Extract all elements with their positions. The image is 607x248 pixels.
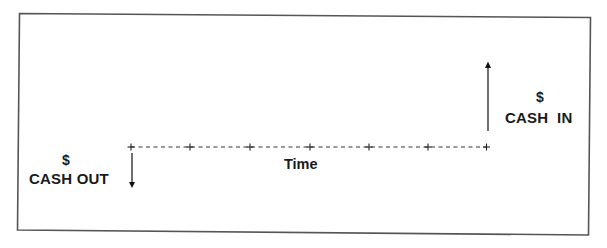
tick-mark (366, 144, 373, 151)
cash-in-label: CASH IN (505, 110, 572, 125)
tick-mark (425, 144, 432, 151)
cash-out-arrow-icon (129, 153, 135, 188)
cash-out-label: CASH OUT (29, 171, 109, 186)
cash-in-arrow-icon (485, 62, 491, 132)
tick-mark (247, 144, 254, 151)
tick-mark (187, 144, 194, 151)
timeline-label: Time (284, 157, 318, 172)
tick-mark (128, 144, 135, 151)
cash-out-currency-symbol: $ (62, 153, 70, 167)
tick-mark (483, 144, 490, 151)
tick-mark (307, 144, 314, 151)
timeline-ticks (128, 144, 491, 151)
cash-in-currency-symbol: $ (536, 90, 544, 104)
